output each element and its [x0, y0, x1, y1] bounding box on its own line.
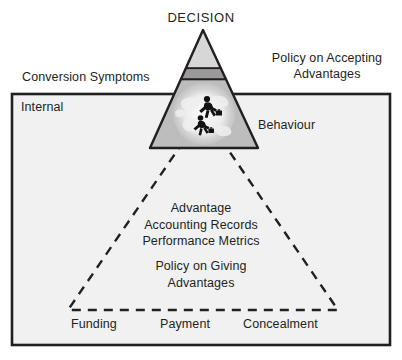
decision-label: DECISION [0, 11, 402, 26]
base-label-concealment: Concealment [243, 317, 318, 332]
apex-band-top-rule [140, 67, 270, 69]
base-label-payment: Payment [160, 317, 210, 332]
apex-pyramid [140, 30, 270, 150]
apex-band-bottom-rule [140, 78, 270, 80]
bribery-pyramid-diagram: DECISION Conversion Symptoms Policy on A… [0, 0, 402, 360]
apex-band-fill [140, 69, 270, 79]
conversion-symptoms-label: Conversion Symptoms [22, 70, 150, 85]
behaviour-label: Behaviour [258, 118, 315, 133]
policy-on-giving-advantages-label: Policy on Giving Advantages [101, 258, 301, 291]
base-label-funding: Funding [71, 317, 117, 332]
policy-on-accepting-advantages-label: Policy on Accepting Advantages [258, 50, 396, 82]
internal-label: Internal [21, 100, 64, 115]
core-elements-text: Advantage Accounting Records Performance… [101, 200, 301, 250]
